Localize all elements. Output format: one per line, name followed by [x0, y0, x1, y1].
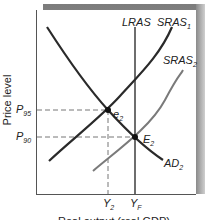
- label-sras1: SRAS1: [157, 16, 191, 30]
- x-axis-label: Real output (real GDP): [58, 215, 170, 220]
- label-sras2: SRAS2: [163, 54, 197, 68]
- y-tick-p90: P90: [16, 130, 31, 144]
- x-tick-y2: Y2: [103, 197, 114, 211]
- y-tick-p95: P95: [16, 103, 31, 117]
- x-tick-yf: YF: [130, 197, 142, 211]
- point-E2: [132, 134, 138, 140]
- label-lras: LRAS: [122, 16, 151, 28]
- chart-svg: LRAS SRAS1 SRAS2 AD2 e2 E2 P95 P90 Y2 YF…: [0, 0, 205, 220]
- chart-figure: LRAS SRAS1 SRAS2 AD2 e2 E2 P95 P90 Y2 YF…: [0, 0, 205, 220]
- point-e2-small: [105, 107, 111, 113]
- y-axis-label: Price level: [1, 75, 13, 126]
- frame-shadow-right: [196, 4, 205, 194]
